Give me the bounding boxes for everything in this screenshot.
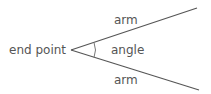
vertex-label: end point [9,44,66,56]
angle-arc [94,43,96,58]
angle-label: angle [111,44,144,56]
arm-bottom-label: arm [114,74,138,86]
arm-top-label: arm [114,14,138,26]
angle-diagram: end point arm angle arm [0,0,211,94]
